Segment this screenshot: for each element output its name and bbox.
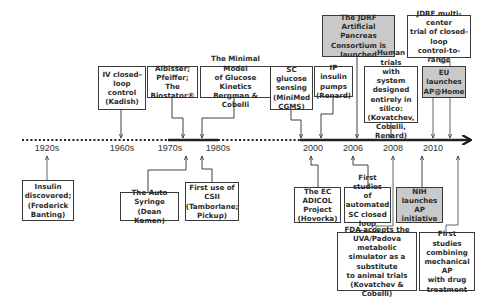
event-jdrf-multicenter-trial: JDRF multi-center trial of closed-loop c… (407, 15, 471, 58)
axis-label-1970s: 1970s (158, 143, 183, 153)
event-ec-adicol: The EC ADICOL Project (Hovorka) (294, 187, 341, 223)
event-minimal-model: The Minimal Model of Glucose Kinetics Be… (200, 66, 271, 98)
axis-label-2010: 2010 (423, 143, 443, 153)
axis-label-1960s: 1960s (110, 143, 135, 153)
event-auto-syringe: The Auto Syringe (Dean Kamen) (120, 192, 179, 221)
event-insulin-discovered: Insulin discovered; (Frederick Banting) (22, 180, 74, 221)
event-nih-ap-initiative: NIH launches AP initiative (396, 187, 443, 223)
event-biostator: Albisser; Pfeiffer; The Biostator® (147, 66, 198, 98)
ap-history-timeline-diagram: 1920s 1960s 1970s 1980s 2000 2006 2008 2… (0, 0, 497, 304)
event-eu-ap-at-home: EU launches AP@Home (422, 66, 466, 98)
event-automated-sc-closed-loop: First studies of automated SC closed loo… (344, 187, 391, 223)
event-mechanical-ap-drug: First studies combining mechanical AP wi… (419, 232, 475, 291)
axis-label-2000: 2000 (303, 143, 323, 153)
event-fda-uva-padova-simulator: FDA accepts the UVA/Padova metabolic sim… (337, 232, 417, 291)
axis-label-1920s: 1920s (35, 143, 60, 153)
event-first-csii: First use of CSII (Tamborlane; Pickup) (185, 182, 239, 221)
event-sc-glucose-sensing: SC glucose sensing (MiniMed CGMS) (270, 66, 313, 110)
axis-label-1980s: 1980s (206, 143, 231, 153)
event-iv-closed-loop: IV closed- loop control (Kadish) (98, 66, 146, 110)
event-ip-insulin-pumps: IP insulin pumps (Renard) (314, 66, 353, 97)
axis-label-2008: 2008 (383, 143, 403, 153)
axis-label-2006: 2006 (343, 143, 363, 153)
event-human-trials-in-silico: Human trials with system designed entire… (364, 66, 418, 123)
